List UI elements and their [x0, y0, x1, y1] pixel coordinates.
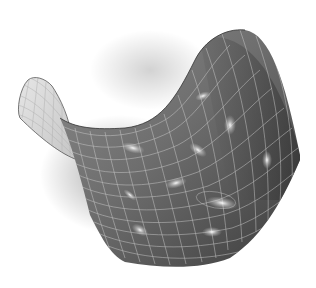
saddle-surface-illustration	[0, 0, 316, 288]
saddle-left-flap	[18, 75, 78, 160]
